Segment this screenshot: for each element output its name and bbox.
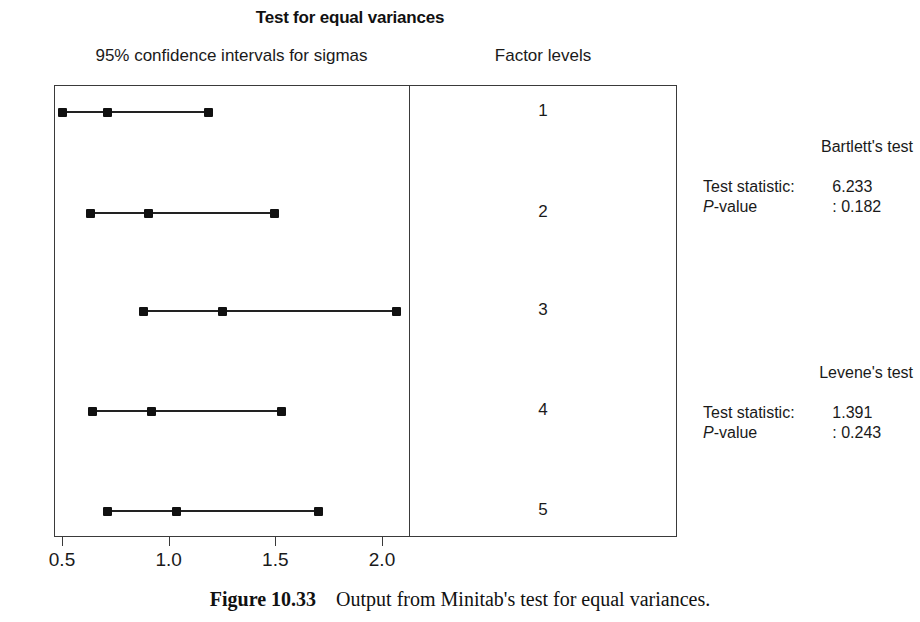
factor-level-label: 4 [409,400,677,420]
levene-pvalue-value: : 0.243 [826,424,913,442]
bartlett-test-block: Bartlett's test Test statistic: 6.233 P-… [703,138,913,216]
levene-test-name: Levene's test [703,364,913,382]
x-axis-tick-label: 1.5 [262,549,288,571]
factor-level-label: 3 [409,300,677,320]
upper-endpoint-marker [314,507,323,516]
interval-line [143,310,397,312]
factor-level-label: 2 [409,202,677,222]
bartlett-statistic-value: 6.233 [826,178,913,196]
lower-endpoint-marker [103,507,112,516]
bartlett-pvalue-value: : 0.182 [826,198,913,216]
x-axis-tick-label: 1.0 [155,549,181,571]
levene-statistic-label: Test statistic: [703,404,826,422]
x-axis-tick-label: 2.0 [369,549,395,571]
left-column-header: 95% confidence intervals for sigmas [54,46,409,66]
right-column-header: Factor levels [409,46,677,66]
levene-pvalue-label: P-value [703,424,826,442]
x-axis-tick [275,537,276,546]
x-axis-tick [169,537,170,546]
levene-pvalue-label-rest: -value [714,424,758,441]
lower-endpoint-marker [86,209,95,218]
lower-endpoint-marker [88,407,97,416]
figure-caption: Figure 10.33 Output from Minitab's test … [0,588,920,611]
interval-line [62,111,208,113]
bartlett-test-name: Bartlett's test [703,138,913,156]
levene-test-stats: Test statistic: 1.391 P-value : 0.243 [703,404,913,442]
figure-container: Test for equal variances 95% confidence … [0,0,920,622]
caption-text: Output from Minitab's test for equal var… [336,588,710,610]
x-axis-tick-label: 0.5 [49,549,75,571]
center-marker [172,507,181,516]
bartlett-pvalue-label-rest: -value [714,198,758,215]
upper-endpoint-marker [277,407,286,416]
bartlett-statistic-label: Test statistic: [703,178,826,196]
lower-endpoint-marker [58,108,67,117]
factor-level-label: 5 [409,500,677,520]
upper-endpoint-marker [392,307,401,316]
interval-line [90,212,274,214]
caption-spacer [316,588,336,610]
levene-pvalue-italic-p: P [703,424,714,441]
center-marker [144,209,153,218]
factor-level-label: 1 [409,101,677,121]
x-axis-tick [382,537,383,546]
interval-line [108,510,318,512]
upper-endpoint-marker [204,108,213,117]
bartlett-test-stats: Test statistic: 6.233 P-value : 0.182 [703,178,913,216]
lower-endpoint-marker [139,307,148,316]
levene-statistic-value: 1.391 [826,404,913,422]
interval-line [93,410,282,412]
levene-test-block: Levene's test Test statistic: 1.391 P-va… [703,364,913,442]
center-marker [103,108,112,117]
center-marker [218,307,227,316]
bartlett-pvalue-label: P-value [703,198,826,216]
x-axis-tick [62,537,63,546]
figure-number: Figure 10.33 [210,588,316,610]
chart-title: Test for equal variances [0,8,700,28]
upper-endpoint-marker [270,209,279,218]
bartlett-pvalue-italic-p: P [703,198,714,215]
center-marker [147,407,156,416]
